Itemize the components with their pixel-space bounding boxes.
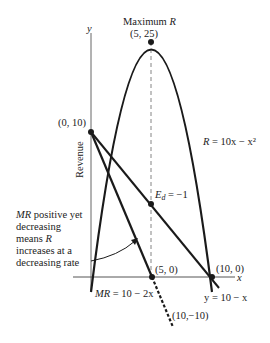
intercept-point [88, 129, 94, 135]
marginal-revenue-dashed-extension [152, 277, 173, 327]
elasticity-point [148, 201, 154, 207]
svg-text:decreasing: decreasing [16, 221, 62, 232]
marginal-revenue-line [91, 132, 152, 277]
r-zero-point [209, 274, 215, 280]
r-zero-label: (10, 0) [216, 263, 244, 275]
revenue-diagram: y x Revenue Maximum R (5, 25) (0, 10) (5… [0, 0, 270, 343]
revenue-equation: R = 10x − x² [202, 136, 256, 147]
mr-zero-label: (5, 0) [155, 264, 178, 276]
max-label: Maximum R [123, 16, 176, 27]
mr-annotation: MR positive yet decreasing means R incre… [15, 209, 83, 268]
mr-end-label: (10,−10) [172, 310, 209, 322]
svg-text:decreasing rate: decreasing rate [16, 257, 80, 268]
svg-text:MR positive yet: MR positive yet [15, 209, 83, 220]
svg-text:means R: means R [16, 233, 52, 244]
max-coords: (5, 25) [130, 28, 158, 40]
mr-equation: MR = 10 − 2x [94, 288, 154, 299]
revenue-axis-label: Revenue [74, 141, 85, 178]
elasticity-label: Ed = −1 [154, 189, 188, 202]
intercept-label: (0, 10) [58, 117, 86, 129]
svg-text:increases at a: increases at a [16, 245, 72, 256]
max-point [148, 39, 154, 45]
y-axis-label: y [86, 23, 92, 34]
demand-equation: y = 10 − x [204, 292, 248, 303]
